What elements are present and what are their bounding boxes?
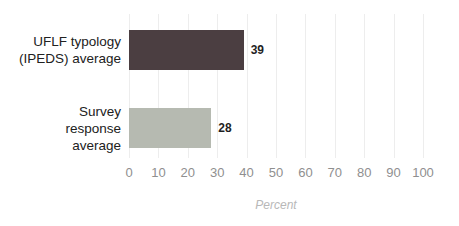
x-tick-label: 0 — [125, 165, 132, 180]
x-tick-label: 60 — [298, 165, 312, 180]
x-tick-label: 100 — [412, 165, 434, 180]
x-tick-label: 80 — [357, 165, 371, 180]
bar — [129, 30, 244, 70]
gridline — [305, 14, 306, 158]
value-label: 39 — [251, 30, 264, 70]
gridline — [276, 14, 277, 158]
gridline — [364, 14, 365, 158]
gridline — [394, 14, 395, 158]
x-tick-label: 20 — [181, 165, 195, 180]
gridline — [423, 14, 424, 158]
gridline — [247, 14, 248, 158]
x-tick-label: 90 — [386, 165, 400, 180]
x-tick-label: 10 — [151, 165, 165, 180]
x-tick-label: 70 — [328, 165, 342, 180]
x-axis-title: Percent — [255, 198, 296, 212]
bar — [129, 108, 211, 148]
x-tick-label: 50 — [269, 165, 283, 180]
gridline — [335, 14, 336, 158]
x-tick-label: 40 — [239, 165, 253, 180]
bar-chart: 3928 UFLF typology(IPEDS) averageSurveyr… — [0, 0, 459, 226]
x-tick-label: 30 — [210, 165, 224, 180]
value-label: 28 — [218, 108, 231, 148]
category-label: Surveyresponseaverage — [65, 103, 121, 154]
category-label: UFLF typology(IPEDS) average — [19, 33, 121, 67]
